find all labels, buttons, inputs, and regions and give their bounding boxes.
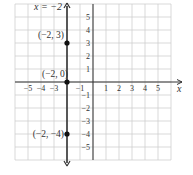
- y-tick-label: −5: [81, 143, 90, 152]
- x-tick-label: 5: [156, 84, 160, 93]
- point-label: (−2, −4): [33, 129, 64, 140]
- y-tick-label: 5: [86, 13, 90, 22]
- y-tick-label: 3: [86, 39, 90, 48]
- y-tick-label: −4: [81, 130, 90, 139]
- x-tick-label: 1: [104, 84, 108, 93]
- x-tick-label: 4: [143, 84, 147, 93]
- x-tick-label: −3: [50, 84, 59, 93]
- x-tick-label: −5: [24, 84, 33, 93]
- y-tick-label: −1: [81, 91, 90, 100]
- x-tick-label: −4: [37, 84, 46, 93]
- equation-label: x = −2: [33, 1, 62, 12]
- x-axis-label: x: [176, 83, 182, 94]
- data-point: [64, 131, 69, 136]
- data-point: [64, 40, 69, 45]
- y-tick-label: −3: [81, 117, 90, 126]
- y-tick-label: 1: [86, 65, 90, 74]
- x-tick-label: 2: [117, 84, 121, 93]
- x-tick-label: 3: [130, 84, 134, 93]
- data-point: [64, 79, 69, 84]
- y-tick-label: 2: [86, 52, 90, 61]
- point-label: (−2, 3): [38, 30, 64, 41]
- point-label: (−2, 0): [42, 69, 68, 80]
- y-tick-label: 4: [86, 26, 90, 35]
- coordinate-plane: −5−4−3−11234554321−1−2−3−4−5 (−2, 3)(−2,…: [0, 0, 193, 175]
- y-tick-label: −2: [81, 104, 90, 113]
